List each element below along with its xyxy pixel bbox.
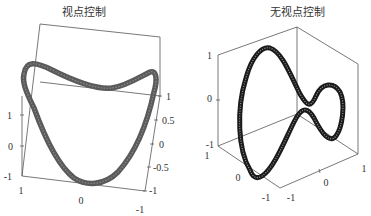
svg-text:1: 1 [205, 150, 210, 161]
svg-text:1: 1 [7, 110, 12, 121]
left-plot: 视点控制 1 0 -1 1 0 -1 [4, 5, 175, 215]
svg-text:1: 1 [362, 163, 367, 174]
svg-text:-1: -1 [206, 139, 214, 150]
left-x-ticks: 1 0 -1 [19, 185, 145, 215]
svg-text:1: 1 [19, 185, 24, 196]
svg-text:0: 0 [159, 139, 164, 150]
svg-text:-0.5: -0.5 [153, 162, 169, 173]
svg-text:-1: -1 [4, 171, 12, 182]
svg-text:0.5: 0.5 [162, 115, 175, 126]
svg-text:0: 0 [8, 141, 13, 152]
right-curve [240, 48, 343, 178]
svg-text:1: 1 [166, 91, 171, 102]
figure: 视点控制 1 0 -1 1 0 -1 [0, 0, 371, 216]
right-y-ticks: -1 0 1 [287, 163, 367, 203]
svg-text:-1: -1 [287, 192, 295, 203]
svg-text:-1: -1 [149, 185, 157, 196]
svg-text:1: 1 [207, 50, 212, 61]
svg-text:0: 0 [236, 172, 241, 183]
left-curve [23, 64, 156, 184]
left-axes-box [22, 24, 160, 191]
svg-text:0: 0 [79, 195, 84, 206]
left-z-ticks: 1 0 -1 [4, 110, 24, 182]
right-plot-title: 无视点控制 [270, 5, 325, 19]
right-plot: 无视点控制 1 0 -1 1 0 -1 [205, 5, 367, 203]
svg-text:-1: -1 [136, 204, 144, 215]
svg-text:-1: -1 [262, 192, 270, 203]
svg-text:0: 0 [207, 93, 212, 104]
left-plot-title: 视点控制 [62, 5, 106, 19]
svg-text:0: 0 [324, 177, 329, 188]
